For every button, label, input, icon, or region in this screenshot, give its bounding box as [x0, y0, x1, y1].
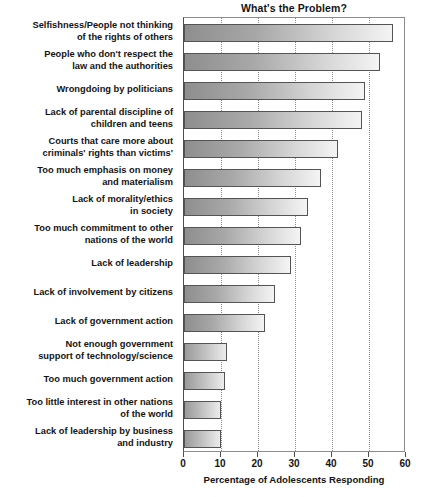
bar — [184, 140, 338, 158]
category-label-line: Too much commitment to other — [0, 223, 173, 234]
x-axis-tick-label: 20 — [251, 458, 262, 469]
category-label-line: Selfishness/People not thinking — [0, 20, 173, 31]
bar — [184, 256, 291, 274]
bar-row — [184, 343, 404, 361]
category-label: Selfishness/People not thinkingof the ri… — [0, 20, 173, 43]
bar — [184, 24, 393, 42]
category-label: Courts that care more aboutcriminals' ri… — [0, 136, 173, 159]
x-axis-ticks — [183, 452, 405, 457]
category-label-line: and industry — [0, 438, 173, 449]
x-axis-tick — [331, 452, 332, 457]
category-label-line: Courts that care more about — [0, 136, 173, 147]
category-label-line: Not enough government — [0, 339, 173, 350]
category-label-line: Lack of involvement by citizens — [0, 287, 173, 298]
category-label-line: support of technology/science — [0, 351, 173, 362]
category-label-line: Lack of leadership — [0, 258, 173, 269]
category-label: Wrongdoing by politicians — [0, 84, 173, 95]
category-label: Not enough governmentsupport of technolo… — [0, 339, 173, 362]
chart-title: What's the Problem? — [183, 2, 405, 14]
bar-chart: What's the Problem? Selfishness/People n… — [0, 0, 425, 497]
bar-row — [184, 169, 404, 187]
bar-row — [184, 198, 404, 216]
bar — [184, 111, 362, 129]
x-axis-tick-label: 10 — [214, 458, 225, 469]
x-axis-tick-label: 60 — [399, 458, 410, 469]
x-axis-tick — [220, 452, 221, 457]
category-label-line: of the rights of others — [0, 32, 173, 43]
category-label-line: Lack of parental discipline of — [0, 107, 173, 118]
x-axis-tick-label: 40 — [325, 458, 336, 469]
x-axis-tick-labels: 0102030405060 — [183, 458, 405, 472]
category-label-line: Lack of government action — [0, 316, 173, 327]
x-axis-title: Percentage of Adolescents Responding — [176, 474, 412, 485]
bar-row — [184, 24, 404, 42]
x-axis-tick — [405, 452, 406, 457]
bar — [184, 401, 221, 419]
category-label: Lack of leadership — [0, 258, 173, 269]
category-label-line: of the world — [0, 409, 173, 420]
x-axis-tick-label: 0 — [180, 458, 186, 469]
category-label: Too much emphasis on moneyand materialis… — [0, 165, 173, 188]
bar — [184, 169, 321, 187]
category-label-line: Lack of morality/ethics — [0, 194, 173, 205]
category-label-line: Too much government action — [0, 374, 173, 385]
category-label-line: Too little interest in other nations — [0, 397, 173, 408]
bar-row — [184, 401, 404, 419]
bar — [184, 430, 221, 448]
x-axis-tick — [294, 452, 295, 457]
category-label: Too little interest in other nationsof t… — [0, 397, 173, 420]
bar-row — [184, 82, 404, 100]
category-axis-labels: Selfishness/People not thinkingof the ri… — [0, 17, 178, 452]
bar — [184, 82, 365, 100]
bar-row — [184, 285, 404, 303]
category-label: Lack of leadership by businessand indust… — [0, 426, 173, 449]
bar-row — [184, 53, 404, 71]
plot-area — [183, 17, 405, 452]
bar-row — [184, 314, 404, 332]
category-label: Too much commitment to othernations of t… — [0, 223, 173, 246]
bar-row — [184, 140, 404, 158]
category-label: Lack of government action — [0, 316, 173, 327]
x-axis-tick — [183, 452, 184, 457]
category-label-line: criminals' rights than victims' — [0, 148, 173, 159]
x-axis-tick-label: 30 — [288, 458, 299, 469]
x-axis-tick — [257, 452, 258, 457]
bar-row — [184, 227, 404, 245]
bar-row — [184, 256, 404, 274]
category-label: Lack of parental discipline ofchildren a… — [0, 107, 173, 130]
category-label-line: Wrongdoing by politicians — [0, 84, 173, 95]
category-label-line: in society — [0, 206, 173, 217]
category-label-line: People who don't respect the — [0, 49, 173, 60]
bar — [184, 314, 265, 332]
category-label-line: Lack of leadership by business — [0, 426, 173, 437]
bar — [184, 198, 308, 216]
bar — [184, 53, 380, 71]
category-label-line: Too much emphasis on money — [0, 165, 173, 176]
category-label: Lack of involvement by citizens — [0, 287, 173, 298]
category-label-line: children and teens — [0, 119, 173, 130]
bar-series — [184, 18, 404, 451]
bar — [184, 343, 227, 361]
category-label-line: nations of the world — [0, 235, 173, 246]
category-label: Lack of morality/ethicsin society — [0, 194, 173, 217]
category-label: Too much government action — [0, 374, 173, 385]
category-label-line: law and the authorities — [0, 61, 173, 72]
x-axis-tick-label: 50 — [362, 458, 373, 469]
category-label-line: and materialism — [0, 177, 173, 188]
bar — [184, 285, 275, 303]
bar — [184, 372, 225, 390]
x-axis-tick — [368, 452, 369, 457]
bar-row — [184, 111, 404, 129]
bar-row — [184, 372, 404, 390]
category-label: People who don't respect thelaw and the … — [0, 49, 173, 72]
bar — [184, 227, 301, 245]
bar-row — [184, 430, 404, 448]
